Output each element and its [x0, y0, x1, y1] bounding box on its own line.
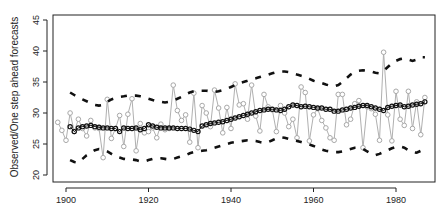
- plot-frame: [53, 15, 435, 182]
- y-tick-label: 25: [31, 139, 41, 149]
- y-axis-label-group: Observed/One step ahead forecasts: [9, 17, 20, 178]
- y-tick-label: 45: [31, 15, 41, 25]
- x-tick-label: 1960: [303, 195, 323, 205]
- time-series-chart: Observed/One step ahead forecasts 202530…: [0, 0, 444, 209]
- series-upper-bound: [70, 57, 425, 105]
- x-tick-label: 1920: [138, 195, 158, 205]
- x-tick-label: 1940: [221, 195, 241, 205]
- y-tick-label: 40: [31, 46, 41, 56]
- x-tick-label: 1900: [56, 195, 76, 205]
- series-layer: [55, 50, 427, 163]
- x-axis: 19001920194019601980: [56, 188, 406, 205]
- y-tick-label: 35: [31, 77, 41, 87]
- y-tick-label: 30: [31, 108, 41, 118]
- y-axis: 202530354045: [31, 15, 47, 180]
- y-axis-label: Observed/One step ahead forecasts: [9, 17, 20, 178]
- x-tick-label: 1980: [386, 195, 406, 205]
- y-tick-label: 20: [31, 170, 41, 180]
